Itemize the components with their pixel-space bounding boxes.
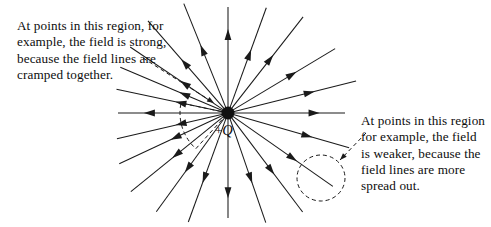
field-line-arrowhead (185, 162, 194, 173)
point-charge-marker (222, 107, 235, 120)
annotation-sparse-region: At points in this region for example, th… (361, 113, 489, 194)
left-leader-arrowhead (207, 97, 214, 103)
field-diagram-figure: At points in this region, for example, t… (0, 0, 491, 227)
field-line (230, 118, 266, 222)
field-line-arrowhead (201, 45, 208, 56)
field-line-arrowhead (265, 164, 274, 175)
field-line (117, 114, 223, 138)
field-line (233, 81, 356, 112)
field-line-arrowhead (179, 92, 190, 99)
field-line-arrowhead (225, 187, 232, 198)
charge-symbol: Q (222, 122, 232, 138)
field-line-arrowhead (264, 55, 273, 66)
field-line (184, 4, 226, 108)
field-line-arrowhead (285, 72, 296, 81)
field-line-arrowhead (286, 152, 297, 161)
field-line-arrowhead (301, 131, 313, 138)
highlight-region-group (180, 103, 345, 201)
field-line-arrowhead (245, 172, 252, 184)
field-line-arrowhead (203, 171, 210, 182)
field-line-arrowhead (171, 132, 182, 140)
field-line-arrowhead (303, 91, 314, 98)
charge-label: +Q (215, 122, 233, 139)
annotation-dense-region: At points in this region, for example, t… (17, 18, 167, 83)
field-line-arrowhead (172, 149, 183, 159)
field-line-arrowhead (244, 49, 251, 60)
leader-line-group (143, 58, 366, 160)
field-line-arrowhead (144, 110, 155, 117)
field-line-arrowhead (225, 29, 232, 40)
field-line-arrowhead (309, 110, 320, 117)
